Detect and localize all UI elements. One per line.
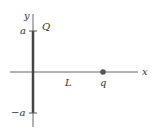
x-axis-label: x [142,66,148,77]
point-charge-label: q [100,77,106,88]
line-charge-label: Q [42,21,50,32]
point-charge-dot [100,69,106,75]
tick-label-a: a [20,25,26,36]
diagram-canvas: y x a −a Q L q [0,0,154,131]
tick-label-neg-a: −a [11,107,25,118]
distance-label: L [64,77,72,88]
y-axis-label: y [23,10,30,21]
